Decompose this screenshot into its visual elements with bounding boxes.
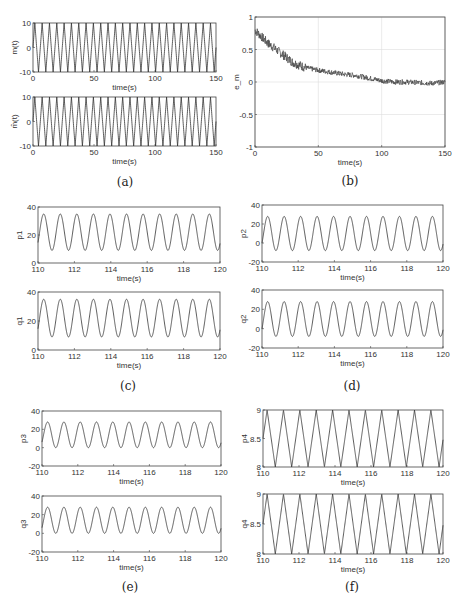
x-tick-label: 118: [400, 350, 413, 359]
x-tick-label: 114: [329, 469, 342, 478]
y-tick-label: 40: [27, 203, 36, 212]
y-tick-label: 8.5: [250, 520, 262, 529]
x-tick-label: 100: [148, 74, 162, 83]
y-tick-label: 0: [27, 118, 32, 127]
y-tick-label: 0: [27, 44, 32, 53]
x-tick-label: 116: [365, 469, 378, 478]
y-tick-label: -0.5: [239, 111, 253, 120]
y-tick-label: -1: [246, 143, 254, 152]
x-tick-label: 112: [292, 350, 305, 359]
x-tick-label: 50: [90, 148, 99, 157]
y-tick-label: 20: [251, 305, 260, 314]
y-tick-label: 0: [32, 346, 37, 355]
x-axis-label: time(s): [119, 563, 144, 572]
caption-d: (d): [343, 379, 360, 393]
x-tick-label: 120: [213, 265, 227, 274]
panel-d-subplot-2: 110112114116118120-2002040time(s)q2: [239, 286, 450, 368]
caption-e: (e): [122, 580, 138, 594]
y-tick-label: 40: [31, 407, 40, 416]
y-tick-label: -20: [28, 462, 40, 471]
y-tick-label: 10: [22, 19, 31, 28]
x-tick-label: 116: [365, 556, 378, 565]
x-tick-label: 118: [400, 264, 413, 273]
y-axis-label: q4: [240, 519, 249, 528]
x-axis-label: time(s): [119, 477, 144, 486]
y-axis-label: q3: [19, 519, 28, 528]
x-tick-label: 120: [436, 350, 450, 359]
panel-a-subplot-1: 050100150-10010time(s)m(t): [10, 19, 223, 92]
y-axis-label: q2: [239, 314, 248, 323]
data-line: [262, 302, 443, 337]
x-tick-label: 100: [375, 149, 389, 158]
x-tick-label: 116: [364, 264, 377, 273]
x-axis-label: time(s): [112, 83, 137, 92]
data-line: [38, 299, 220, 337]
x-tick-label: 120: [436, 556, 450, 565]
x-tick-label: 112: [293, 556, 306, 565]
caption-c: (c): [120, 379, 136, 393]
y-tick-label: 0: [249, 78, 254, 87]
y-tick-label: 10: [22, 93, 31, 102]
x-axis-label: time(s): [340, 273, 365, 282]
y-tick-label: 20: [31, 425, 40, 434]
x-axis-label: time(s): [112, 157, 137, 166]
y-tick-label: 20: [27, 231, 36, 240]
y-axis-label: m(t): [10, 40, 19, 55]
x-tick-label: 116: [143, 468, 156, 477]
x-tick-label: 120: [436, 469, 450, 478]
y-tick-label: 0: [36, 529, 41, 538]
x-tick-label: 50: [90, 74, 99, 83]
x-tick-label: 114: [329, 556, 342, 565]
data-line: [262, 216, 443, 250]
x-tick-label: 120: [214, 468, 228, 477]
x-tick-label: 112: [71, 468, 84, 477]
panel-a-subplot-2: 050100150-10010time(s)m̂(t): [10, 93, 223, 166]
x-tick-label: 0: [31, 74, 36, 83]
x-tick-label: 150: [209, 74, 223, 83]
panel-f-subplot-1: 11011211411611812088.59time(s)p4: [240, 406, 450, 487]
data-line: [38, 214, 220, 250]
panel-f-subplot-2: 11011211411611812088.59time(s)q4: [240, 490, 450, 574]
y-tick-label: 20: [27, 317, 36, 326]
y-tick-label: 8: [257, 463, 262, 472]
axes-frame: [262, 290, 443, 348]
x-tick-label: 118: [179, 554, 192, 563]
data-line: [42, 422, 221, 448]
x-axis-label: time(s): [341, 478, 366, 487]
data-line: [263, 494, 443, 554]
x-tick-label: 116: [143, 554, 156, 563]
data-line: [33, 97, 216, 146]
x-tick-label: 0: [31, 148, 36, 157]
y-tick-label: 0: [256, 239, 261, 248]
x-axis-label: time(s): [338, 158, 363, 167]
y-tick-label: 9: [257, 490, 262, 499]
x-tick-label: 112: [292, 264, 305, 273]
data-line: [255, 29, 445, 86]
x-tick-label: 120: [214, 554, 228, 563]
y-axis-label: p2: [239, 229, 248, 238]
figure-canvas: 050100150-10010time(s)m(t)050100150-1001…: [0, 0, 465, 610]
y-tick-label: -10: [19, 68, 31, 77]
y-tick-label: -20: [248, 258, 260, 267]
x-tick-label: 116: [141, 265, 154, 274]
y-axis-label: p1: [15, 230, 24, 239]
data-line: [42, 507, 221, 533]
x-tick-label: 112: [293, 469, 306, 478]
y-tick-label: 1: [249, 13, 254, 22]
y-tick-label: 40: [31, 492, 40, 501]
panel-c-subplot-2: 11011211411611812002040time(s)q1: [15, 288, 227, 370]
x-tick-label: 112: [71, 554, 84, 563]
x-axis-label: time(s): [341, 565, 366, 574]
x-tick-label: 114: [104, 265, 117, 274]
y-tick-label: -10: [19, 142, 31, 151]
caption-f: (f): [345, 580, 359, 594]
panel-e-subplot-1: 110112114116118120-2002040time(s)p3: [19, 407, 228, 486]
x-tick-label: 114: [104, 352, 117, 361]
panel-e-subplot-2: 110112114116118120-2002040time(s)q3: [19, 492, 228, 572]
x-tick-label: 0: [253, 149, 258, 158]
x-tick-label: 120: [213, 352, 227, 361]
y-tick-label: 20: [31, 511, 40, 520]
y-tick-label: 0: [36, 444, 41, 453]
axes-frame: [262, 205, 443, 262]
x-tick-label: 116: [141, 352, 154, 361]
